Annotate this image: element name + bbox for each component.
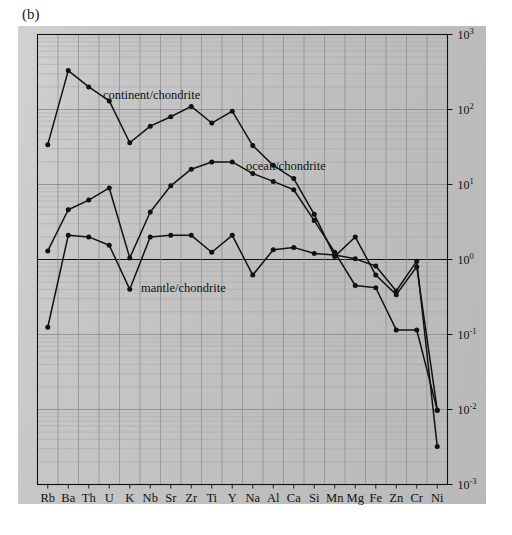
data-point [312,218,317,223]
data-point [291,187,296,192]
data-point [230,159,235,164]
data-point [230,109,235,114]
data-point [414,259,419,264]
data-point [66,207,71,212]
data-point [45,325,50,330]
x-tick-label-si: Si [309,491,320,505]
data-point [148,209,153,214]
x-axis-tick-labels: RbBaThUKNbSrZrTiYNaAlCaSiMnMgFeZnCrNi [40,491,444,505]
data-point [230,233,235,238]
data-point [312,251,317,256]
data-point [394,327,399,332]
data-point [414,327,419,332]
y-axis-tick-labels: 10-310-210-1100101102103 [458,26,477,492]
data-point [107,185,112,190]
x-tick-label-k: K [125,491,134,505]
data-point [435,408,440,413]
x-tick-label-ti: Ti [206,491,217,505]
data-point [189,104,194,109]
data-point [291,176,296,181]
data-point [127,287,132,292]
x-tick-label-al: Al [267,491,280,505]
y-axis-ticks [448,35,453,485]
data-point [209,121,214,126]
x-tick-label-zr: Zr [185,491,198,505]
data-point [168,114,173,119]
data-point [271,247,276,252]
x-axis-ticks [48,485,438,489]
x-tick-label-fe: Fe [370,491,383,505]
data-point [353,283,358,288]
series-annotation-ocean: ocean/chondrite [246,159,326,173]
data-point [127,255,132,260]
data-point [209,250,214,255]
data-point [127,140,132,145]
data-point [373,263,378,268]
data-point [373,285,378,290]
data-point [107,243,112,248]
chart-canvas: 10-310-210-1100101102103 RbBaThUKNbSrZrT… [0,0,512,535]
series-annotation-continent: continent/chondrite [103,88,201,102]
data-point [250,143,255,148]
data-point [86,234,91,239]
x-tick-label-zn: Zn [389,491,404,505]
x-tick-label-mg: Mg [347,491,365,505]
x-tick-label-ni: Ni [431,491,444,505]
data-point [312,212,317,217]
x-tick-label-ca: Ca [287,491,301,505]
data-point [45,248,50,253]
x-tick-label-ba: Ba [61,491,75,505]
series-annotation-mantle: mantle/chondrite [141,281,226,295]
x-tick-label-y: Y [228,491,237,505]
x-tick-label-sr: Sr [165,491,177,505]
data-point [86,84,91,89]
y-tick-label: 103 [458,26,474,42]
data-point [435,444,440,449]
data-point [66,233,71,238]
x-tick-label-cr: Cr [411,491,424,505]
x-tick-label-th: Th [82,491,97,505]
data-point [168,233,173,238]
y-tick-label: 100 [458,251,474,267]
data-point [250,273,255,278]
data-point [189,167,194,172]
y-tick-label: 102 [458,101,474,117]
data-point [168,183,173,188]
figure-root: (b) 10-310-210-1100101102103 RbBaThUKNbS… [0,0,512,535]
x-tick-label-rb: Rb [40,491,55,505]
y-tick-label: 10-2 [458,401,477,417]
data-point [66,68,71,73]
x-tick-label-nb: Nb [143,491,158,505]
data-point [86,198,91,203]
data-point [332,252,337,257]
data-point [373,273,378,278]
data-point [353,256,358,261]
data-point [148,234,153,239]
data-point [394,289,399,294]
data-point [209,159,214,164]
data-point [291,245,296,250]
data-point [148,124,153,129]
data-point [271,179,276,184]
data-point [189,233,194,238]
y-tick-label: 10-3 [458,476,477,492]
x-tick-label-u: U [105,491,114,505]
x-tick-label-na: Na [245,491,260,505]
data-point [45,142,50,147]
y-tick-label: 10-1 [458,326,477,342]
data-point [353,234,358,239]
y-tick-label: 101 [458,176,474,192]
x-tick-label-mn: Mn [326,491,344,505]
